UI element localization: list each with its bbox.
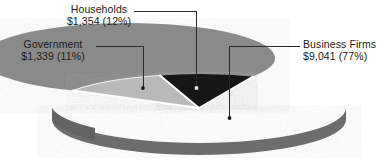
endpoint-dot-government: [141, 86, 145, 90]
callout-label-business-firms: Business Firms $9,041 (77%): [303, 38, 391, 62]
callout-label-households: Households $1,354 (12%): [64, 3, 134, 27]
pie-3d-side-wall: [52, 108, 346, 155]
callout-title-government: Government: [11, 38, 95, 50]
callout-title-business-firms: Business Firms: [303, 38, 391, 50]
callout-value-households: $1,354 (12%): [64, 15, 134, 27]
callout-value-government: $1,339 (11%): [11, 50, 95, 62]
endpoint-dot-households: [195, 86, 199, 90]
endpoint-dot-business-firms: [228, 116, 232, 120]
callout-label-government: Government $1,339 (11%): [11, 38, 95, 62]
chart-canvas: Households $1,354 (12%) Government $1,33…: [0, 0, 391, 161]
callout-title-households: Households: [64, 3, 134, 15]
pie-chart-figure: [0, 0, 391, 161]
pie-top-face: [0, 23, 275, 108]
callout-value-business-firms: $9,041 (77%): [303, 50, 391, 62]
